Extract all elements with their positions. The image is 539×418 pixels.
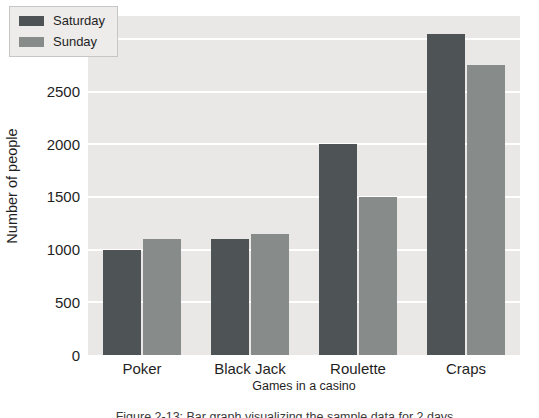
bar-group-craps (412, 16, 520, 355)
bar-group-roulette (304, 16, 412, 355)
y-tick-label: 1500 (10, 189, 80, 204)
legend-entry: Sunday (19, 35, 105, 49)
plot-area (88, 16, 520, 355)
x-tick-label: Poker (88, 361, 196, 376)
saturday-swatch-icon (19, 16, 44, 26)
sunday-bar (251, 234, 289, 355)
x-tick-label: Roulette (304, 361, 412, 376)
caption-fragment: Figure 2-13: Bar graph visualizing the s… (0, 410, 539, 418)
legend-label: Saturday (53, 14, 105, 28)
sunday-bar (359, 197, 397, 355)
y-tick-label: 2500 (10, 84, 80, 99)
saturday-bar (319, 144, 357, 355)
x-axis-label: Games in a casino (88, 379, 520, 393)
x-tick-label: Craps (412, 361, 520, 376)
legend-entry: Saturday (19, 14, 105, 28)
legend: SaturdaySunday (9, 6, 118, 57)
bar-group-black-jack (196, 16, 304, 355)
y-tick-label: 2000 (10, 137, 80, 152)
saturday-bar (211, 239, 249, 355)
sunday-bar (143, 239, 181, 355)
bar-group-poker (88, 16, 196, 355)
bar-chart-figure: Number of people 05001000150020002500300… (0, 0, 539, 418)
y-tick-label: 0 (10, 348, 80, 363)
sunday-bar (467, 65, 505, 355)
sunday-swatch-icon (19, 37, 44, 47)
y-tick-label: 1000 (10, 242, 80, 257)
x-tick-label: Black Jack (196, 361, 304, 376)
saturday-bar (103, 250, 141, 355)
saturday-bar (427, 34, 465, 355)
y-tick-label: 500 (10, 295, 80, 310)
legend-label: Sunday (53, 35, 97, 49)
